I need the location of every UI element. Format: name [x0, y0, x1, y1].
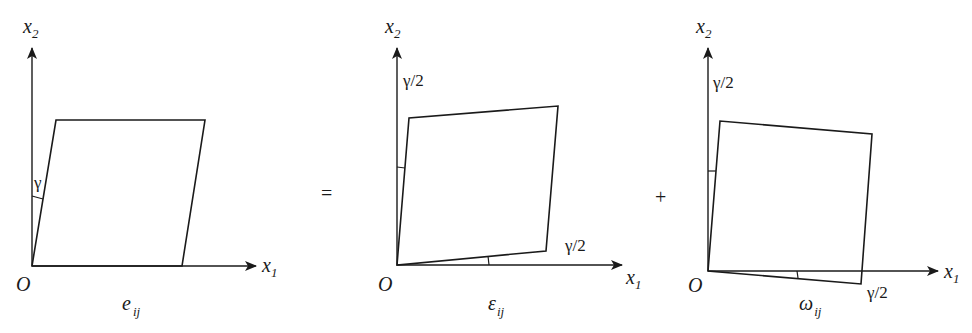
- caption-e-ij: eij: [122, 292, 141, 319]
- x2-axis-label: x2: [22, 15, 39, 41]
- x2-axis-label: x2: [695, 15, 712, 41]
- gamma-half-label-top: γ/2: [402, 71, 424, 90]
- x2-axis-label: x2: [384, 15, 401, 41]
- origin-label: O: [378, 273, 392, 295]
- angle-arc-bottom: [488, 256, 489, 265]
- x1-axis-label: x1: [943, 260, 959, 286]
- panel-epsilon-ij: x2 x1 O γ/2 γ/2 εij: [378, 15, 641, 319]
- gamma-angle-label: γ: [33, 173, 42, 192]
- panel-omega-ij: x2 x1 O γ/2 γ/2 ωij: [688, 15, 959, 319]
- equals-sign: =: [321, 182, 332, 204]
- gamma-half-label-top: γ/2: [712, 73, 734, 92]
- sheared-parallelogram: [32, 120, 205, 266]
- rotated-square: [708, 121, 872, 284]
- strained-quadrilateral: [397, 106, 558, 265]
- gamma-half-label-bottom: γ/2: [866, 283, 888, 302]
- plus-sign: +: [655, 186, 666, 208]
- caption-omega-ij: ωij: [799, 292, 822, 319]
- panel-e-ij: x2 x1 O γ eij: [16, 15, 277, 319]
- caption-epsilon-ij: εij: [488, 292, 505, 319]
- angle-arc-gamma: [32, 196, 43, 199]
- origin-label: O: [16, 273, 30, 295]
- origin-label: O: [688, 274, 702, 296]
- strain-decomposition-diagram: x2 x1 O γ eij = x2 x1 O γ/2 γ/2 εij + x2…: [0, 0, 972, 333]
- x1-axis-label: x1: [625, 266, 641, 292]
- x1-axis-label: x1: [261, 254, 277, 280]
- angle-arc-left: [397, 167, 405, 168]
- gamma-half-label-right: γ/2: [564, 236, 586, 255]
- angle-arc-bottom: [797, 271, 798, 278]
